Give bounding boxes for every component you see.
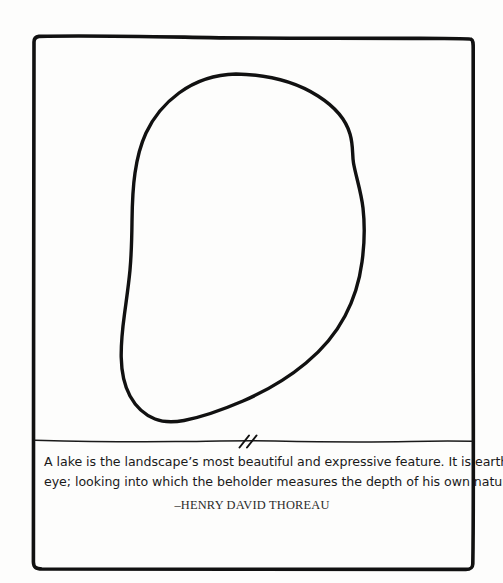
quote-block: A lake is the landscape’s most beautiful… [44,452,460,515]
lake-outline-path [121,74,364,422]
quote-line-1: A lake is the landscape’s most beautiful… [44,452,460,472]
quote-line-2: eye; looking into which the beholder mea… [44,472,460,492]
quote-attribution: –HENRY DAVID THOREAU [44,495,460,515]
illustration-page: A lake is the landscape’s most beautiful… [0,0,503,583]
